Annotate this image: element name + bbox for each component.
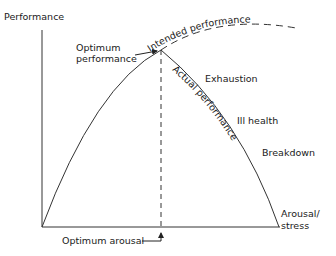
stage-ill-health: Ill health	[237, 115, 278, 126]
y-axis-label: Performance	[4, 11, 64, 22]
optimum-performance-label-1: Optimum	[76, 42, 120, 53]
x-axis-label-2: stress	[281, 220, 309, 231]
optimum-arousal-label: Optimum arousal	[62, 235, 144, 246]
optimum-arousal-arrow	[142, 233, 161, 241]
x-axis-label-1: Arousal/	[281, 208, 320, 219]
performance-arousal-diagram: Performance Optimum performance Intended…	[0, 0, 336, 256]
intended-performance-label: Intended performance	[145, 14, 251, 54]
stage-exhaustion: Exhaustion	[205, 73, 258, 84]
stage-breakdown: Breakdown	[262, 147, 315, 158]
optimum-performance-label-2: performance	[76, 53, 137, 64]
